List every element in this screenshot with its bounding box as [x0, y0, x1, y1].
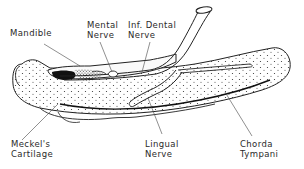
label-meckels-cartilage-line1: Meckel's	[11, 139, 53, 149]
label-lingual-nerve-line1: Lingual	[145, 139, 179, 149]
label-mental-nerve: Mental Nerve	[87, 20, 118, 40]
label-mandible: Mandible	[10, 28, 52, 38]
label-inf-dental-nerve-line2: Nerve	[128, 30, 176, 40]
label-lingual-nerve-line2: Nerve	[145, 149, 179, 159]
label-chorda-tympani: Chorda Tympani	[240, 139, 278, 159]
label-meckels-cartilage-line2: Cartilage	[11, 149, 53, 159]
label-chorda-tympani-line1: Chorda	[240, 139, 278, 149]
label-mental-nerve-line1: Mental	[87, 20, 118, 30]
label-mandible-text: Mandible	[10, 28, 52, 38]
anatomical-diagram: Mandible Mental Nerve Inf. Dental Nerve …	[0, 0, 304, 169]
label-mental-nerve-line2: Nerve	[87, 30, 118, 40]
label-meckels-cartilage: Meckel's Cartilage	[11, 139, 53, 159]
leader-mandible	[44, 44, 80, 66]
leader-chorda-tympani	[225, 92, 252, 136]
label-inf-dental-nerve-line1: Inf. Dental	[128, 20, 176, 30]
label-inf-dental-nerve: Inf. Dental Nerve	[128, 20, 176, 40]
label-lingual-nerve: Lingual Nerve	[145, 139, 179, 159]
leader-meckels-cartilage	[22, 104, 58, 140]
meckels-cartilage-shape	[13, 48, 290, 123]
label-chorda-tympani-line2: Tympani	[240, 149, 278, 159]
